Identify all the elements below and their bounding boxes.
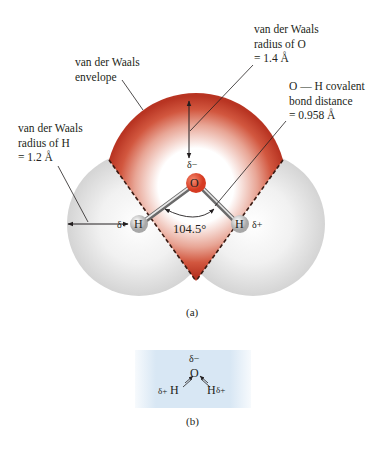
formula-oxygen: O (190, 366, 199, 381)
envelope-label: van der Waals envelope (75, 55, 140, 84)
bond-angle-value: 104.5° (173, 222, 206, 237)
oxygen-charge: δ− (187, 158, 197, 173)
hydrogen-left-symbol: H (134, 217, 143, 232)
formula-hydrogen-right-charge: δ+ (216, 383, 225, 398)
formula-hydrogen-right: H (207, 383, 216, 398)
envelope-leader (122, 80, 143, 110)
formula-hydrogen-left-charge: δ+ (158, 384, 167, 399)
formula-oxygen-charge: δ− (189, 352, 199, 367)
caption-a: (a) (186, 305, 198, 320)
radius-h-label: van der Waals radius of H = 1.2 Å (18, 121, 83, 165)
radius-o-label: van der Waals radius of O = 1.4 Å (254, 22, 319, 66)
oxygen-symbol: O (190, 176, 199, 191)
hydrogen-right-charge: δ+ (252, 218, 262, 233)
bond-distance-label: O — H covalent bond distance = 0.958 Å (289, 79, 365, 123)
hydrogen-right-symbol: H (235, 217, 244, 232)
formula-hydrogen-left: H (170, 383, 179, 398)
hydrogen-left-charge: δ+ (117, 218, 127, 233)
caption-b: (b) (186, 414, 199, 429)
